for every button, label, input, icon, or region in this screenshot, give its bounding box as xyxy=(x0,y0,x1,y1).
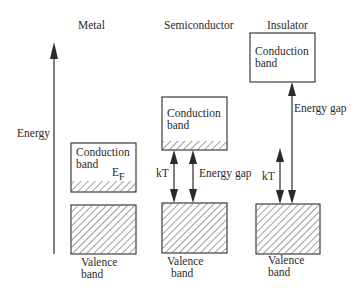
insulator-conduction-label-2: band xyxy=(255,57,278,69)
semiconductor-gap-label: Energy gap xyxy=(199,167,252,180)
metal-title: Metal xyxy=(78,19,105,31)
metal-valence-label-2: band xyxy=(81,268,104,280)
semiconductor-valence-label-1: Valence xyxy=(167,255,203,267)
insulator-conduction-label-1: Conduction xyxy=(255,45,309,57)
arrow-down-icon xyxy=(170,189,178,203)
metal-conduction-label-2: band xyxy=(76,158,99,170)
semiconductor-title: Semiconductor xyxy=(164,19,234,31)
metal-column: Conduction band EF Valence band xyxy=(71,143,136,280)
semiconductor-kt-label: kT xyxy=(156,167,169,179)
semiconductor-conduction-label-1: Conduction xyxy=(167,107,221,119)
insulator-column: Conduction band Energy gap kT Valence ba… xyxy=(250,33,347,278)
fermi-subscript: F xyxy=(119,171,125,182)
semiconductor-valence-label-2: band xyxy=(171,267,194,279)
energy-axis: Energy xyxy=(17,42,58,254)
fermi-e: E xyxy=(112,166,119,178)
insulator-valence-fill xyxy=(257,205,320,254)
arrow-up-icon xyxy=(170,150,178,164)
metal-valence-label-1: Valence xyxy=(81,256,117,268)
metal-filled-states xyxy=(72,181,136,192)
insulator-valence-label-1: Valence xyxy=(268,254,304,266)
energy-axis-label: Energy xyxy=(17,127,50,140)
metal-conduction-label-1: Conduction xyxy=(76,146,130,158)
semiconductor-filled-states xyxy=(163,141,227,150)
semiconductor-conduction-label-2: band xyxy=(167,119,190,131)
semiconductor-column: Conduction band kT Energy gap Valence ba… xyxy=(156,97,252,279)
arrow-down-icon xyxy=(288,190,296,204)
arrow-up-icon xyxy=(189,150,197,164)
energy-band-diagram: Energy Metal Semiconductor Insulator Con… xyxy=(0,0,361,290)
insulator-title: Insulator xyxy=(267,19,308,31)
insulator-gap-label: Energy gap xyxy=(294,102,347,115)
arrow-up-icon xyxy=(50,42,58,59)
arrow-down-icon xyxy=(276,190,284,204)
metal-valence-fill xyxy=(72,206,136,254)
arrow-up-icon xyxy=(276,148,284,162)
insulator-kt-label: kT xyxy=(262,170,275,182)
arrow-up-icon xyxy=(288,82,296,96)
insulator-valence-label-2: band xyxy=(268,266,291,278)
arrow-down-icon xyxy=(189,189,197,203)
semiconductor-valence-fill xyxy=(163,204,227,253)
